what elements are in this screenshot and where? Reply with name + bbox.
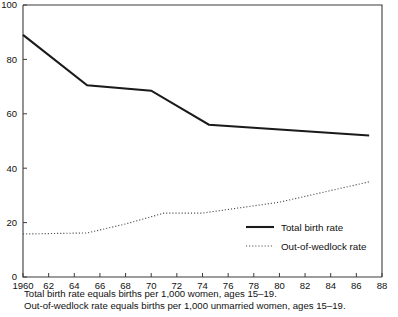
plot-frame bbox=[23, 5, 382, 277]
y-tick-label-40: 40 bbox=[6, 163, 17, 174]
axis-frame bbox=[23, 5, 382, 277]
y-tick-label-60: 60 bbox=[6, 108, 17, 119]
chart-captions: Total birth rate equals births per 1,000… bbox=[24, 288, 396, 312]
caption-line-2: Out-of-wedlock rate equals births per 1,… bbox=[24, 300, 396, 312]
y-tick-label-20: 20 bbox=[6, 217, 17, 228]
legend-label-1: Out-of-wedlock rate bbox=[281, 241, 367, 252]
series-line-0 bbox=[23, 35, 369, 136]
line-chart: 020406080100 196062646668707274767880828… bbox=[0, 0, 398, 317]
legend-label-0: Total birth rate bbox=[281, 222, 344, 233]
chart-figure: 020406080100 196062646668707274767880828… bbox=[0, 0, 398, 317]
y-tick-label-80: 80 bbox=[6, 54, 17, 65]
caption-line-1: Total birth rate equals births per 1,000… bbox=[24, 288, 396, 300]
chart-legend: Total birth rateOut-of-wedlock rate bbox=[246, 222, 367, 252]
data-series-group bbox=[23, 35, 369, 234]
y-tick-label-100: 100 bbox=[1, 0, 17, 10]
